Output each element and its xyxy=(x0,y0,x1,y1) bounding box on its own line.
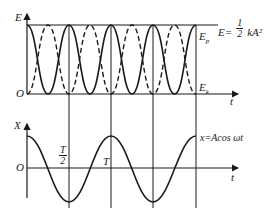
ep-label: Ep xyxy=(199,31,209,45)
period-guide-lines xyxy=(69,25,196,208)
displacement-axis-label: X xyxy=(14,120,21,131)
energy-axis-label: E xyxy=(15,12,22,23)
period-label: T xyxy=(103,156,109,167)
displacement-equation: x=Acos ωt xyxy=(200,133,243,143)
energy-origin-label: O xyxy=(16,88,24,99)
energy-time-label: t xyxy=(230,96,233,107)
total-energy-formula: E= 1 2 kA² xyxy=(218,18,262,39)
displacement-origin-label: O xyxy=(16,162,24,173)
displacement-time-label: t xyxy=(231,172,234,183)
ek-label: Ek xyxy=(199,82,209,96)
half-period-label: T 2 xyxy=(59,145,67,166)
